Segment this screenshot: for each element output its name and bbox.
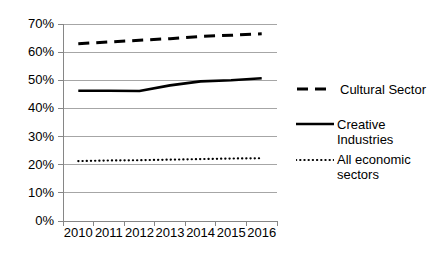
chart-container: 70% 60% 50% 40% 30% 20% 10% 0% 2010 2011… <box>0 0 439 256</box>
x-tick-label-2012: 2012 <box>124 226 155 246</box>
y-axis-labels: 70% 60% 50% 40% 30% 20% 10% 0% <box>8 0 54 256</box>
y-tick-label-60: 60% <box>8 45 54 58</box>
y-tick-label-50: 50% <box>8 73 54 86</box>
legend-item-all-economic-sectors: All economic sectors <box>296 152 411 182</box>
x-tick-label-2014: 2014 <box>185 226 216 246</box>
solid-line-marker-icon <box>296 117 334 131</box>
y-tick-label-40: 40% <box>8 101 54 114</box>
y-tick-label-20: 20% <box>8 158 54 171</box>
chart-legend: Cultural Sector Creative Industries All … <box>296 0 439 256</box>
series-line-cultural-sector <box>78 34 261 44</box>
x-axis-labels: 2010 2011 2012 2013 2014 2015 2016 <box>63 226 277 246</box>
legend-label-all-economic-sectors: All economic sectors <box>337 152 411 182</box>
dotted-line-marker-icon <box>296 152 334 166</box>
legend-label-creative-industries: Creative Industries <box>337 117 393 147</box>
y-tick-label-10: 10% <box>8 186 54 199</box>
y-axis-ticks <box>58 24 63 221</box>
legend-item-creative-industries: Creative Industries <box>296 117 393 147</box>
x-tick-label-2011: 2011 <box>94 226 125 246</box>
x-tick-label-2013: 2013 <box>155 226 186 246</box>
y-tick-label-0: 0% <box>8 214 54 227</box>
gridlines <box>63 24 277 221</box>
x-tick-label-2015: 2015 <box>216 226 247 246</box>
legend-label-cultural-sector: Cultural Sector <box>340 82 426 97</box>
dashed-line-marker-icon <box>296 82 334 96</box>
plot-area: 70% 60% 50% 40% 30% 20% 10% 0% 2010 2011… <box>0 0 290 256</box>
legend-item-cultural-sector: Cultural Sector <box>296 82 426 97</box>
y-tick-label-70: 70% <box>8 17 54 30</box>
y-tick-label-30: 30% <box>8 130 54 143</box>
x-tick-label-2010: 2010 <box>63 226 94 246</box>
series-line-all-economic-sectors <box>78 158 261 161</box>
x-tick-label-2016: 2016 <box>246 226 277 246</box>
